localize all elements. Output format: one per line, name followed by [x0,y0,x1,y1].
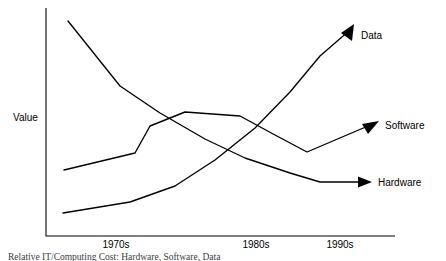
x-tick-label-1990s: 1990s [326,239,353,250]
series-line-software [64,112,368,170]
chart-axes [46,8,395,236]
series-line-hardware [68,21,360,182]
series-line-data [63,30,350,213]
series-label-data: Data [361,30,383,41]
series-arrow-data [341,24,354,41]
series-arrow-software [362,121,379,134]
line-chart: Value 1970s 1980s 1990s Hardware Softwar… [0,0,446,261]
x-tick-label-1970s: 1970s [102,239,129,250]
x-tick-label-1980s: 1980s [242,239,269,250]
figure-caption: Relative IT/Computing Cost: Hardware, So… [8,252,438,261]
series-label-software: Software [385,120,425,131]
figure-container: Value 1970s 1980s 1990s Hardware Softwar… [0,0,446,261]
series-arrow-hardware [358,177,372,188]
series-label-hardware: Hardware [378,177,422,188]
y-axis-label: Value [13,112,38,123]
